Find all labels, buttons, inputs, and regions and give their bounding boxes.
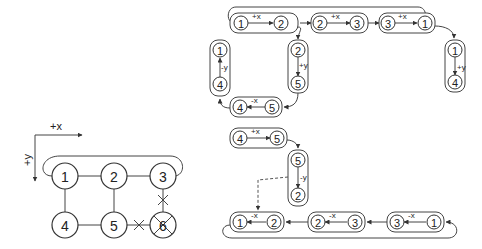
svg-text:+x: +x bbox=[252, 12, 261, 21]
svg-text:3: 3 bbox=[385, 18, 391, 30]
svg-text:6: 6 bbox=[159, 218, 167, 234]
svg-text:1: 1 bbox=[422, 18, 428, 30]
svg-text:+y: +y bbox=[299, 61, 308, 70]
svg-text:-y: -y bbox=[300, 173, 307, 182]
svg-text:1: 1 bbox=[61, 169, 69, 185]
svg-text:3: 3 bbox=[159, 169, 167, 185]
svg-text:2: 2 bbox=[317, 18, 323, 30]
svg-text:+x: +x bbox=[331, 12, 340, 21]
svg-text:4: 4 bbox=[237, 102, 243, 114]
grid-node-4: 4 bbox=[52, 212, 78, 238]
svg-text:5: 5 bbox=[295, 78, 301, 90]
svg-text:-x: -x bbox=[408, 211, 415, 220]
svg-text:2: 2 bbox=[295, 190, 301, 202]
svg-text:5: 5 bbox=[295, 155, 301, 167]
svg-text:4: 4 bbox=[237, 133, 243, 145]
move-box-4-5-plus-x: 4 +x 5 bbox=[230, 127, 287, 148]
move-box-1-3-minus-x: 3 -x 1 bbox=[387, 211, 444, 232]
move-box-2-3-plus-x: 2 +x 3 bbox=[311, 12, 368, 33]
svg-text:1: 1 bbox=[237, 217, 243, 229]
svg-text:2: 2 bbox=[110, 169, 118, 185]
y-axis-label: +y bbox=[21, 154, 33, 166]
move-box-4-1-minus-y: 1 -y 4 bbox=[210, 40, 230, 96]
move-sequence: 1 +x 2 2 +x 3 3 +x 1 1 +y 4 bbox=[210, 7, 466, 238]
move-box-3-1-plus-x: 3 +x 1 bbox=[379, 12, 435, 33]
svg-text:1: 1 bbox=[238, 18, 244, 30]
svg-text:-x: -x bbox=[251, 211, 258, 220]
svg-text:5: 5 bbox=[269, 102, 275, 114]
dashed-reroute-path bbox=[258, 177, 288, 210]
torus-grid: +x +y 1 2 3 4 5 6 bbox=[21, 120, 183, 238]
svg-text:+x: +x bbox=[398, 12, 407, 21]
svg-text:4: 4 bbox=[452, 77, 458, 89]
svg-text:1: 1 bbox=[431, 217, 437, 229]
svg-text:3: 3 bbox=[394, 217, 400, 229]
move-box-2-5-plus-y: 2 +y 5 bbox=[288, 40, 308, 93]
svg-text:2: 2 bbox=[315, 217, 321, 229]
grid-node-1: 1 bbox=[52, 163, 78, 189]
move-box-2-1-minus-x: 1 -x 2 bbox=[230, 211, 284, 232]
grid-node-6-failed: 6 bbox=[150, 212, 176, 238]
svg-text:-x: -x bbox=[251, 96, 258, 105]
svg-text:1: 1 bbox=[217, 45, 223, 57]
svg-text:1: 1 bbox=[452, 45, 458, 57]
svg-text:2: 2 bbox=[278, 18, 284, 30]
svg-text:+x: +x bbox=[251, 127, 260, 136]
move-box-5-2-minus-y: 5 -y 2 bbox=[288, 150, 308, 206]
svg-text:4: 4 bbox=[217, 79, 223, 91]
svg-text:3: 3 bbox=[354, 18, 360, 30]
svg-text:3: 3 bbox=[352, 217, 358, 229]
move-box-1-2-plus-x: 1 +x 2 bbox=[230, 12, 298, 33]
move-box-3-2-minus-x: 2 -x 3 bbox=[308, 211, 365, 232]
grid-node-3: 3 bbox=[150, 163, 176, 189]
svg-text:+y: +y bbox=[457, 63, 466, 72]
x-axis-label: +x bbox=[50, 120, 62, 132]
grid-node-2: 2 bbox=[101, 163, 127, 189]
routing-diagram: +x +y 1 2 3 4 5 6 1 bbox=[0, 0, 482, 249]
move-box-1-4-plus-y: 1 +y 4 bbox=[445, 40, 466, 92]
grid-node-5: 5 bbox=[101, 212, 127, 238]
svg-text:2: 2 bbox=[271, 217, 277, 229]
svg-text:-x: -x bbox=[329, 211, 336, 220]
svg-text:5: 5 bbox=[274, 133, 280, 145]
svg-text:4: 4 bbox=[61, 218, 69, 234]
move-box-5-4-minus-x: 4 -x 5 bbox=[230, 96, 282, 117]
svg-text:2: 2 bbox=[295, 45, 301, 57]
svg-text:5: 5 bbox=[110, 218, 118, 234]
svg-text:-y: -y bbox=[221, 63, 228, 72]
